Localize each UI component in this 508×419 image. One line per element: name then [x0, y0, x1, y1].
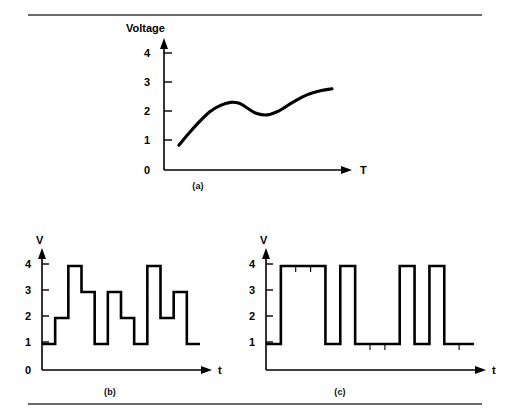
chart-c-waveform [266, 266, 474, 344]
chart-b-y-arrow [38, 248, 46, 259]
chart-a-ylabel-4: 4 [144, 47, 151, 59]
chart-a-y-arrow [160, 38, 168, 49]
chart-a-ylabel-1: 1 [144, 134, 150, 146]
chart-b-ylabel-0: 0 [25, 364, 31, 376]
chart-c-ylabel-1: 1 [249, 336, 255, 348]
chart-c-x-arrow [475, 366, 486, 374]
chart-a-ylabel: Voltage [126, 22, 165, 34]
caption-c: (c) [310, 387, 370, 397]
chart-a-svg: Voltage 0 1 2 3 4 T [118, 20, 378, 195]
chart-b-x-arrow [201, 366, 212, 374]
chart-a-ylabel-2: 2 [144, 105, 150, 117]
chart-b-ylabel-3: 3 [25, 284, 31, 296]
chart-b-svg: V 0 1 2 3 4 t [14, 230, 230, 400]
chart-b-ylabel-2: 2 [25, 310, 31, 322]
chart-a-curve [179, 89, 332, 146]
chart-b-waveform [42, 266, 200, 344]
chart-c-ylabel-2: 2 [249, 310, 255, 322]
chart-a-ylabel-0: 0 [144, 164, 150, 176]
chart-c-xlabel: t [492, 364, 496, 376]
chart-panel-b: V 0 1 2 3 4 t [14, 230, 230, 400]
top-rule [28, 14, 482, 16]
figure-page: Voltage 0 1 2 3 4 T (a) V [0, 0, 508, 419]
chart-panel-c: V 1 2 3 4 t [238, 230, 496, 400]
chart-c-svg: V 1 2 3 4 t [238, 230, 496, 400]
chart-b-ylabel: V [36, 234, 44, 246]
chart-c-ylabel-3: 3 [249, 284, 255, 296]
chart-a-x-arrow [341, 166, 352, 174]
chart-c-ylabel-4: 4 [249, 258, 256, 270]
chart-panel-a: Voltage 0 1 2 3 4 T [118, 20, 378, 195]
chart-a-ylabel-3: 3 [144, 76, 150, 88]
chart-c-bit-boundary-ticks [296, 266, 459, 350]
chart-c-y-arrow [262, 248, 270, 259]
chart-c-ylabel: V [260, 234, 268, 246]
caption-b: (b) [80, 387, 140, 397]
bottom-rule [28, 403, 482, 405]
chart-b-xlabel: t [218, 364, 222, 376]
chart-a-xlabel: T [360, 164, 367, 176]
chart-b-ylabel-1: 1 [25, 336, 31, 348]
caption-a: (a) [168, 181, 228, 191]
chart-b-ylabel-4: 4 [25, 258, 32, 270]
